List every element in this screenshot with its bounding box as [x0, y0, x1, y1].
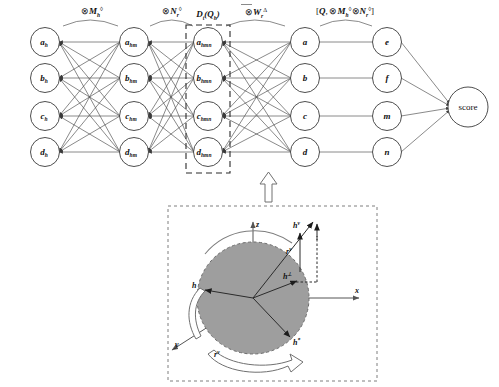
node-sub-c-h: h	[44, 116, 47, 122]
node-sub-b-hmn: hmn	[201, 78, 211, 84]
layer-hidden1-nodes: ahm bhm chm dhm	[120, 28, 149, 167]
node-sub-a-h: h	[45, 42, 48, 48]
node-sub-d-hmn: hmn	[201, 152, 211, 158]
node-sub-d-hm: hm	[130, 152, 138, 158]
score-node-group: score	[448, 87, 488, 127]
operator-nr-label: ⊗Nr◊	[162, 6, 182, 18]
network-edges-layer4-to-layer5	[319, 42, 373, 152]
node-label-m: m	[383, 111, 390, 121]
operator-dq-label: Dt(Qh)	[195, 9, 220, 21]
node-sub-c-hmn: hmn	[201, 116, 211, 122]
vector-h-v-label: hv	[293, 220, 300, 230]
operator-bracket-group: [Q, ⊗Mh◊⊗Nr◊]	[316, 6, 374, 27]
score-node-label: score	[459, 102, 478, 112]
figure-root: ah bh ch dh ahm bhm chm dhm ahmn bhmn ch…	[0, 0, 499, 387]
network-edges-layer5-to-score	[401, 42, 450, 152]
operator-dq-group: Dt(Qh)	[195, 9, 220, 21]
vector-h-star-label: h*	[293, 337, 300, 347]
node-label-c: c	[303, 111, 307, 121]
operator-mh-label: ⊗Mh◊	[81, 6, 103, 18]
layer-hidden3-nodes: a b c d	[291, 28, 320, 167]
node-label-b: b	[303, 73, 308, 83]
node-sub-c-hm: hm	[129, 116, 137, 122]
network-edges-layer2-to-layer3	[148, 42, 194, 152]
node-sub-d-h: h	[45, 152, 48, 158]
node-sub-b-hm: hm	[130, 78, 138, 84]
vector-h-label: h	[192, 281, 197, 290]
vector-r-v-label: rv	[286, 246, 292, 256]
axis-z-label: z	[255, 220, 260, 229]
axis-y-label: y	[174, 340, 179, 349]
layer-input-nodes: ah bh ch dh	[31, 28, 60, 167]
layer-hidden2-nodes: ahmn bhmn chmn dhmn	[194, 28, 223, 167]
rotation-panel: z x y h h* h⊥ hv rv	[168, 206, 377, 381]
up-arrow-connector	[260, 172, 277, 202]
node-label-n: n	[384, 147, 389, 157]
node-sub-b-h: h	[45, 78, 48, 84]
node-label-a: a	[303, 37, 308, 47]
operator-wr-group: ⊗WrΔ	[226, 5, 285, 27]
node-sub-a-hmn: hmn	[201, 42, 211, 48]
operator-nr-group: ⊗Nr◊	[150, 6, 193, 27]
node-sub-a-hm: hm	[130, 42, 138, 48]
network-edges-layer3-to-layer4	[222, 42, 291, 152]
node-label-d: d	[303, 147, 308, 157]
operator-mh-group: ⊗Mh◊	[63, 6, 118, 27]
operator-bracket-label: [Q, ⊗Mh◊⊗Nr◊]	[316, 6, 374, 18]
operator-wr-label: ⊗WrΔ	[245, 7, 267, 19]
axis-x-label: x	[354, 286, 359, 295]
node-label-e: e	[385, 37, 389, 47]
layer-hidden4-nodes: e f m n	[373, 28, 402, 167]
network-edges-layer1-to-layer2	[59, 42, 120, 152]
